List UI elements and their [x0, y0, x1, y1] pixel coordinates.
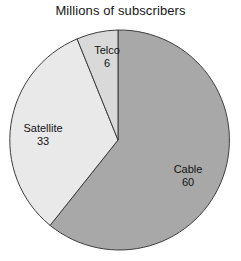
- slice-label-telco-name: Telco: [80, 44, 134, 57]
- slice-label-satellite: Satellite 33: [8, 122, 78, 147]
- pie-chart: Millions of subscribers Telco 6 Satellit…: [0, 0, 241, 261]
- slice-label-cable-value: 60: [160, 176, 216, 189]
- slice-label-satellite-name: Satellite: [8, 122, 78, 135]
- slice-label-telco-value: 6: [80, 57, 134, 70]
- slice-label-cable-name: Cable: [160, 163, 216, 176]
- slice-label-telco: Telco 6: [80, 44, 134, 69]
- slice-label-cable: Cable 60: [160, 163, 216, 188]
- slice-label-satellite-value: 33: [8, 135, 78, 148]
